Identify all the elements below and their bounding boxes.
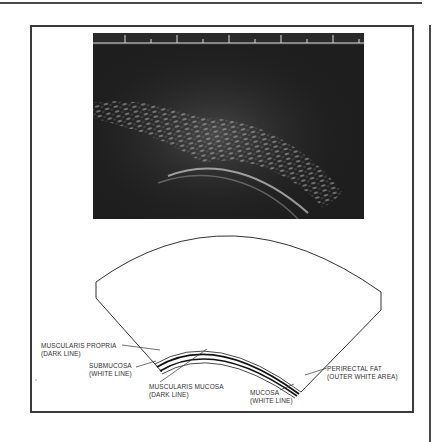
label-line: PERIRECTAL FAT [327,365,398,373]
label-line: (DARK LINE) [149,391,224,399]
label-muscularis-propria: MUSCULARIS PROPRIA (DARK LINE) [41,342,116,358]
label-line: (DARK LINE) [41,350,116,358]
label-perirectal-fat: PERIRECTAL FAT (OUTER WHITE AREA) [327,365,398,381]
label-line: MUSCULARIS PROPRIA [41,342,116,350]
label-line: MUCOSA [250,389,293,397]
label-mucosa: MUCOSA (WHITE LINE) [250,389,293,405]
label-line: (WHITE LINE) [250,397,293,405]
label-line: (WHITE LINE) [89,370,132,378]
label-line: (OUTER WHITE AREA) [327,373,398,381]
label-line: SUBMUCOSA [89,362,132,370]
label-submucosa: SUBMUCOSA (WHITE LINE) [89,362,132,378]
label-muscularis-mucosa: MUSCULARIS MUCOSA (DARK LINE) [149,383,224,399]
label-line: MUSCULARIS MUCOSA [149,383,224,391]
